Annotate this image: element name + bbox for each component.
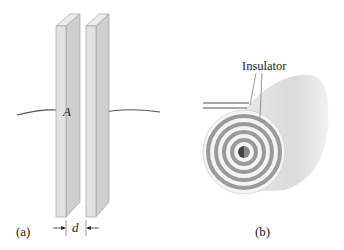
rolled-capacitor	[203, 73, 329, 194]
capacitor-figure: A d (a) Insulator (b)	[0, 0, 344, 250]
insulator-label: Insulator	[242, 60, 286, 73]
area-label: A	[63, 105, 71, 118]
right-wire	[101, 110, 160, 113]
right-plate	[86, 14, 109, 217]
separation-label: d	[72, 221, 79, 234]
panel-b-label: (b)	[255, 225, 270, 238]
panel-a-label: (a)	[16, 225, 30, 238]
figure-drawing	[0, 0, 344, 250]
left-wire	[17, 110, 57, 115]
